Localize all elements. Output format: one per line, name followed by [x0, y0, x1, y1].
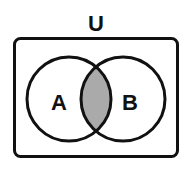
venn-diagram: U A B — [0, 0, 190, 169]
universe-label: U — [88, 11, 104, 36]
set-b-label: B — [122, 90, 138, 115]
set-a-label: A — [51, 90, 67, 115]
